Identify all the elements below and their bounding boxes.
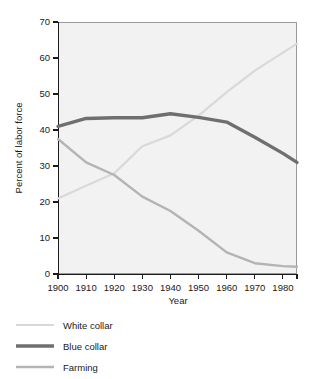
y-tick-label-40: 40 xyxy=(39,124,50,135)
legend-label-white-collar: White collar xyxy=(63,320,113,331)
y-tick-label-60: 60 xyxy=(39,52,50,63)
y-tick-label-10: 10 xyxy=(39,232,50,243)
x-tick-label-1950: 1950 xyxy=(188,282,209,293)
x-tick-label-1920: 1920 xyxy=(104,282,125,293)
x-tick-label-1940: 1940 xyxy=(160,282,181,293)
x-tick-label-1910: 1910 xyxy=(76,282,97,293)
x-tick-label-1970: 1970 xyxy=(244,282,265,293)
plot-area-background xyxy=(58,22,297,274)
x-tick-label-1980: 1980 xyxy=(272,282,293,293)
y-tick-label-50: 50 xyxy=(39,88,50,99)
y-tick-label-0: 0 xyxy=(45,268,50,279)
chart-container: 010203040506070 190019101920193019401950… xyxy=(0,0,318,379)
x-axis-title: Year xyxy=(168,295,187,306)
y-tick-label-20: 20 xyxy=(39,196,50,207)
x-tick-label-1960: 1960 xyxy=(216,282,237,293)
y-tick-label-30: 30 xyxy=(39,160,50,171)
labor-force-line-chart: 010203040506070 190019101920193019401950… xyxy=(0,0,318,379)
y-tick-label-70: 70 xyxy=(39,16,50,27)
x-axis-tick-labels: 190019101920193019401950196019701980 xyxy=(47,282,293,293)
x-tick-label-1900: 1900 xyxy=(47,282,68,293)
y-axis-title: Percent of labor force xyxy=(13,103,24,194)
legend-label-farming: Farming xyxy=(63,362,98,373)
legend-label-blue-collar: Blue collar xyxy=(63,341,107,352)
x-tick-label-1930: 1930 xyxy=(132,282,153,293)
